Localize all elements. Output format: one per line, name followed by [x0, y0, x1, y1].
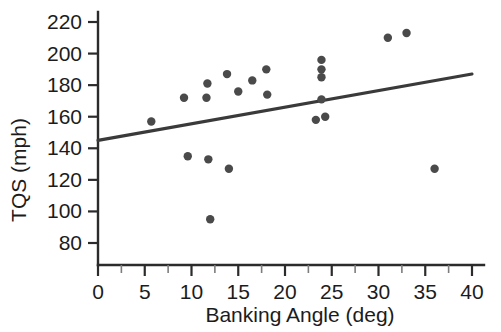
data-point — [223, 70, 231, 78]
x-tick-label-10: 10 — [180, 280, 203, 303]
y-tick-label-200: 200 — [47, 42, 82, 65]
y-axis-title: TQS (mph) — [7, 118, 30, 222]
x-tick-label-15: 15 — [227, 280, 250, 303]
fit-line — [98, 74, 472, 140]
x-tick-label-5: 5 — [139, 280, 151, 303]
y-tick-label-160: 160 — [47, 105, 82, 128]
y-tick-label-140: 140 — [47, 136, 82, 159]
data-point — [317, 73, 325, 81]
scatter-plot-figure: 80100120140160180200220 0510152025303540… — [0, 0, 501, 332]
x-tick-label-35: 35 — [414, 280, 437, 303]
data-point — [203, 79, 211, 87]
y-axis-tick-labels: 80100120140160180200220 — [47, 10, 82, 254]
x-tick-label-25: 25 — [320, 280, 343, 303]
plot-canvas: 80100120140160180200220 0510152025303540… — [0, 0, 501, 332]
x-tick-label-40: 40 — [460, 280, 483, 303]
data-point — [206, 215, 214, 223]
x-tick-label-30: 30 — [367, 280, 390, 303]
y-tick-label-180: 180 — [47, 73, 82, 96]
y-tick-label-120: 120 — [47, 168, 82, 191]
data-point — [317, 95, 325, 103]
data-point — [384, 34, 392, 42]
data-point — [184, 152, 192, 160]
data-point — [234, 87, 242, 95]
x-axis-tick-labels: 0510152025303540 — [92, 280, 484, 303]
data-point — [204, 155, 212, 163]
x-tick-label-20: 20 — [273, 280, 296, 303]
x-axis-title: Banking Angle (deg) — [205, 303, 394, 326]
data-point — [202, 94, 210, 102]
data-points — [147, 29, 439, 224]
data-point — [147, 117, 155, 125]
regression-line — [98, 74, 472, 140]
data-point — [402, 29, 410, 37]
y-tick-label-220: 220 — [47, 10, 82, 33]
data-point — [317, 65, 325, 73]
data-point — [225, 165, 233, 173]
data-point — [321, 113, 329, 121]
y-tick-label-100: 100 — [47, 199, 82, 222]
data-point — [248, 76, 256, 84]
x-axis-ticks — [98, 265, 472, 276]
data-point — [263, 90, 271, 98]
data-point — [262, 65, 270, 73]
data-point — [180, 94, 188, 102]
y-axis-ticks — [88, 22, 98, 243]
data-point — [317, 56, 325, 64]
x-tick-label-0: 0 — [92, 280, 104, 303]
y-tick-label-80: 80 — [59, 231, 82, 254]
axes — [98, 12, 484, 265]
data-point — [312, 116, 320, 124]
data-point — [430, 165, 438, 173]
